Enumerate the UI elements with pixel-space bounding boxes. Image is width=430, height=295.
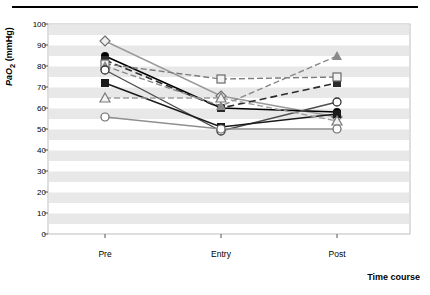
chart-figure: PaO2 (mmHg) 100 90 80 70 60 50 40 30 20 …	[0, 0, 430, 295]
x-axis-ticks	[105, 234, 337, 238]
plot-area-svg	[0, 0, 430, 295]
y-axis-ticks	[44, 24, 48, 234]
plot-background	[44, 24, 410, 238]
